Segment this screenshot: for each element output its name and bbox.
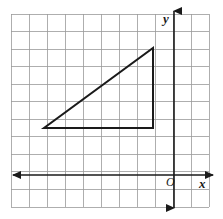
origin-label: O xyxy=(166,176,175,188)
y-axis-label: y xyxy=(163,12,169,25)
grid-lines xyxy=(11,14,209,207)
x-axis-label: x xyxy=(199,177,206,190)
coordinate-plane-svg xyxy=(0,0,223,219)
coordinate-plane-figure: y x O xyxy=(0,0,223,219)
